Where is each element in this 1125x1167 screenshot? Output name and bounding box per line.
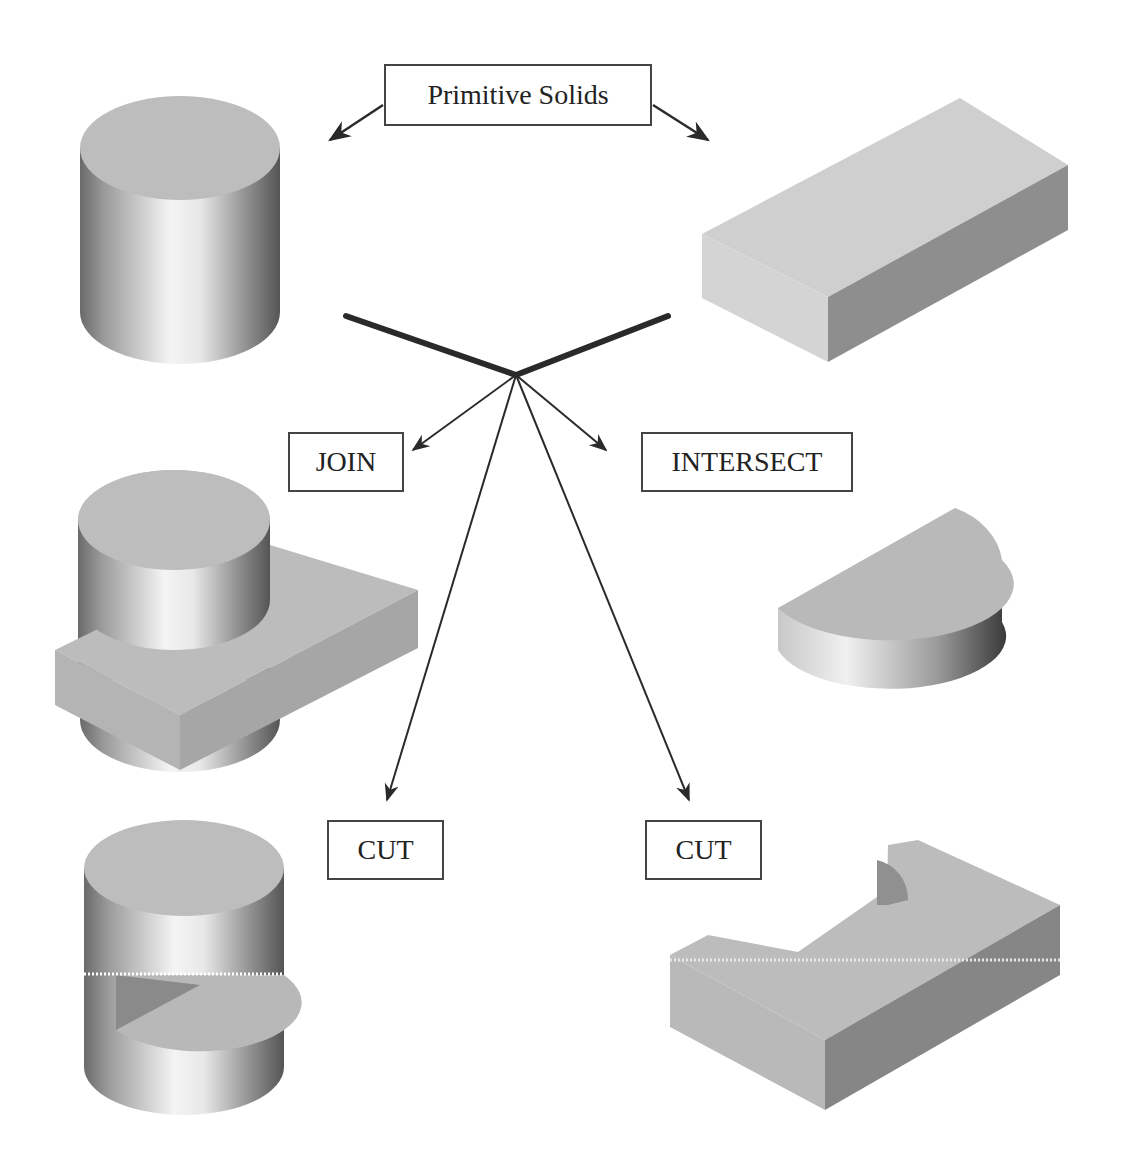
cut-left-result-solid: [84, 820, 302, 1115]
intersect-label: INTERSECT: [641, 432, 853, 492]
csg-diagram: Primitive Solids JOIN INTERSECT CUT CUT: [0, 0, 1125, 1167]
join-label: JOIN: [288, 432, 404, 492]
cut-right-result-solid: [670, 840, 1060, 1110]
join-result-solid: [55, 470, 418, 772]
cut-left-label: CUT: [327, 820, 444, 880]
primitive-cylinder: [80, 96, 280, 364]
cut-right-label: CUT: [645, 820, 762, 880]
intersect-result-solid: [778, 508, 1014, 689]
primitive-block: [702, 98, 1068, 362]
primitive-solids-label: Primitive Solids: [384, 64, 652, 126]
combine-lines: [346, 316, 668, 375]
